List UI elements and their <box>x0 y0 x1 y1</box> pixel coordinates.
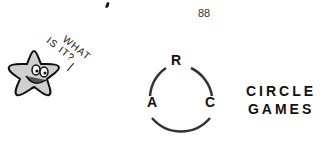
star-mascot-icon <box>6 48 62 98</box>
title-line-1: CIRCLE <box>246 82 316 100</box>
letter-left: A <box>147 94 157 110</box>
speech-tick <box>67 63 74 71</box>
page-number: 88 <box>198 7 210 19</box>
title-line-2: GAMES <box>246 100 316 118</box>
letter-top: R <box>171 52 181 68</box>
music-note-icon <box>105 2 110 9</box>
letter-right: C <box>205 94 215 110</box>
section-title: CIRCLE GAMES <box>246 82 316 118</box>
